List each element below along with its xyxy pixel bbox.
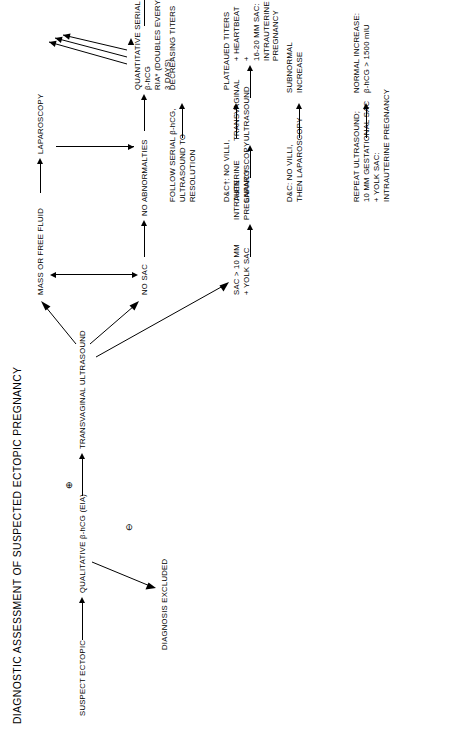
connector-intrauterine-to-tvus2-head (247, 145, 253, 151)
connector-sac10mm-to-intrauterine-head (247, 224, 253, 230)
node-repeat-ultrasound: REPEAT ULTRASOUND; 10 MM GESTATIONAL SAC… (352, 89, 391, 202)
connector-tvus2-to-heartbeat (250, 70, 251, 98)
node-intrauterine-pregnancy: INTRAUTERINE PREGNANCY (232, 160, 252, 220)
node-dc-subnormal: D&C: NO VILLI, THEN LAPAROSCOPY (285, 117, 305, 202)
node-heartbeat-sac: + HEARTBEAT + 16-20 MM SAC: INTRAUTERINE… (232, 0, 281, 61)
flowchart-canvas: DIAGNOSTIC ASSESSMENT OF SUSPECTED ECTOP… (0, 0, 468, 738)
node-transvaginal-ultrasound-2: TRANSVAGINAL ULTRASOUND (232, 79, 252, 141)
connector-intrauterine-to-tvus2 (250, 150, 251, 178)
diagram-sheet: DIAGNOSTIC ASSESSMENT OF SUSPECTED ECTOP… (0, 0, 468, 738)
node-sac-10mm: SAC > 10 MM + YOLK SAC (232, 244, 252, 295)
node-follow-serial-bhcg: FOLLOW SERIAL β-hCG, ULTRASOUND TO RESOL… (168, 108, 198, 202)
connector-sac10mm-to-intrauterine (250, 229, 251, 257)
connector-subnormal-to-dc-head (296, 103, 302, 109)
connector-tvus2-to-heartbeat-head (247, 65, 253, 71)
